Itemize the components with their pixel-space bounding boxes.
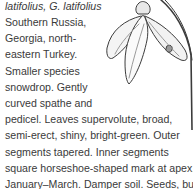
body-line: square horseshoe-shaped mark at apex.: [5, 160, 193, 176]
body-line: eastern Turkey.: [5, 46, 77, 62]
snowdrop-illustration: [95, 0, 193, 130]
body-line: Southern Russia,: [5, 14, 86, 30]
body-line: Georgia, north-: [5, 30, 76, 46]
body-line: January–March. Damper soil. Seeds, bulks: [5, 176, 193, 189]
body-line: segments tapered. Inner segments: [5, 144, 169, 160]
synonyms-text: latifolius, G. latifolius: [5, 0, 102, 14]
document-page: latifolius, G. latifolius Southern Russi…: [0, 0, 193, 189]
body-line: curved spathe and: [5, 95, 92, 111]
body-line: snowdrop. Gently: [5, 79, 87, 95]
body-line: Smaller species: [5, 63, 80, 79]
